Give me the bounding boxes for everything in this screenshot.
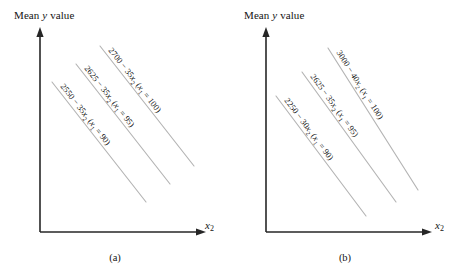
panel-a: Mean y value 2550 − 35x2 (x1 = 90) 2625 … xyxy=(0,0,230,277)
panel-b: Mean y value 2250 − 30x2 (x1 = 90) 2625 … xyxy=(230,0,460,277)
plot-area-b: 2250 − 30x2 (x1 = 90) 2625 − 35x2 (x1 = … xyxy=(230,0,460,277)
contour-label-b-x1-90: 2250 − 30x2 (x1 = 90) xyxy=(281,96,336,164)
x-axis-label-b: x2 xyxy=(435,219,444,233)
x-axis-arrow-b xyxy=(422,228,432,235)
x-axis-label-a: x2 xyxy=(205,219,214,233)
plot-area-a: 2550 − 35x2 (x1 = 90) 2625 − 35x2 (x1 = … xyxy=(0,0,230,277)
contour-label-b-x1-90-group: 2250 − 30x2 (x1 = 90) xyxy=(281,96,336,164)
y-axis-arrow-b xyxy=(262,27,269,37)
figure-response-surface-lines: Mean y value 2550 − 35x2 (x1 = 90) 2625 … xyxy=(0,0,460,277)
contour-line-b-x1-90 xyxy=(276,96,366,216)
panel-caption-b: (b) xyxy=(230,252,460,263)
x-axis-label-subscript-b: 2 xyxy=(440,224,444,233)
panel-caption-a: (a) xyxy=(0,252,230,263)
contour-line-a-x1-90 xyxy=(52,82,146,202)
x-axis-label-subscript-a: 2 xyxy=(210,224,214,233)
y-axis-arrow-a xyxy=(36,27,43,37)
